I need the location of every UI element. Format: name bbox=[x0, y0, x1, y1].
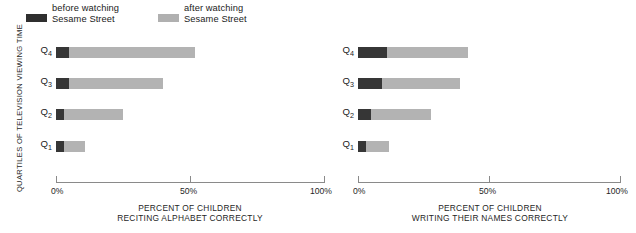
x-tick-label-100: 100% bbox=[310, 186, 332, 196]
x-axis-tick-100 bbox=[324, 176, 325, 183]
bar-segment-before-q3-right bbox=[358, 78, 382, 89]
bar-row-q2-right bbox=[330, 109, 636, 120]
bar-row-q1 bbox=[0, 141, 330, 152]
x-axis-title-line2-right: WRITING THEIR NAMES CORRECTLY bbox=[360, 213, 620, 224]
x-tick-label-50: 50% bbox=[180, 186, 197, 196]
panel-alphabet: Q4 Q3 Q2 Q1 0% 50% 100% PERCENT OF CHIL bbox=[0, 0, 330, 233]
bar-segment-after-q4-right bbox=[387, 47, 468, 58]
bar-row-q4-right bbox=[330, 47, 636, 58]
bar-row-q3-right bbox=[330, 78, 636, 89]
bar-segment-before-q2-right bbox=[358, 109, 371, 120]
x-axis-title-line1: PERCENT OF CHILDREN bbox=[60, 203, 320, 214]
bar-row-q3 bbox=[0, 78, 330, 89]
bar-segment-after-q1-right bbox=[366, 141, 390, 152]
x-tick-label-0-right: 0% bbox=[353, 186, 365, 196]
bar-segment-after-q4 bbox=[69, 47, 195, 58]
bar-segment-before-q1 bbox=[56, 141, 64, 152]
chart-figure: before watching Sesame Street after watc… bbox=[0, 0, 636, 233]
bar-segment-after-q2 bbox=[64, 109, 123, 120]
bar-segment-before-q3 bbox=[56, 78, 69, 89]
x-axis-tick-0-right bbox=[358, 176, 359, 183]
x-tick-label-0: 0% bbox=[51, 186, 63, 196]
bar-row-q4 bbox=[0, 47, 330, 58]
x-tick-label-50-right: 50% bbox=[479, 186, 496, 196]
bar-row-q2 bbox=[0, 109, 330, 120]
x-tick-label-100-right: 100% bbox=[606, 186, 628, 196]
x-axis-tick-0 bbox=[56, 176, 57, 183]
bar-segment-after-q3 bbox=[69, 78, 163, 89]
bar-segment-after-q1 bbox=[64, 141, 85, 152]
bar-segment-before-q4 bbox=[56, 47, 69, 58]
x-axis-tick-100-right bbox=[620, 176, 621, 183]
bar-segment-before-q2 bbox=[56, 109, 64, 120]
x-axis-tick-50 bbox=[190, 176, 191, 183]
bar-row-q1-right bbox=[330, 141, 636, 152]
x-axis-title-line1-right: PERCENT OF CHILDREN bbox=[360, 203, 620, 214]
panel-names: Q4 Q3 Q2 Q1 0% 50% 100% PERCENT OF CHIL bbox=[330, 0, 636, 233]
bar-segment-after-q3-right bbox=[382, 78, 461, 89]
x-axis-tick-50-right bbox=[489, 176, 490, 183]
bar-segment-before-q4-right bbox=[358, 47, 387, 58]
bar-segment-before-q1-right bbox=[358, 141, 366, 152]
x-axis-title-line2: RECITING ALPHABET CORRECTLY bbox=[60, 213, 320, 224]
bar-segment-after-q2-right bbox=[371, 109, 431, 120]
